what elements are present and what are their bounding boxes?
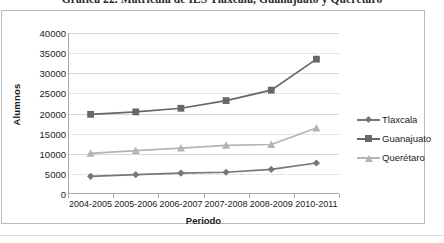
- data-point-marker: [178, 105, 185, 112]
- y-tick-label: 35000: [4, 49, 66, 58]
- legend-label: Guanajuato: [382, 133, 431, 144]
- data-point-marker: [268, 166, 275, 173]
- y-tick-label: 15000: [4, 129, 66, 138]
- series-lines: [68, 33, 339, 194]
- data-point-marker: [313, 159, 320, 166]
- x-tick: [294, 194, 295, 198]
- data-point-marker: [312, 124, 320, 131]
- figure-page: Gráfica 22. Matrícula de IES Tlaxcala, G…: [0, 0, 444, 243]
- data-point-marker: [87, 111, 94, 118]
- x-axis-tick-labels: 2004-20052005-20062006-20072007-20082008…: [68, 199, 339, 211]
- data-point-marker: [132, 171, 139, 178]
- x-tick: [68, 194, 69, 198]
- x-tick: [158, 194, 159, 198]
- y-tick-label: 0: [4, 190, 66, 199]
- x-tick: [113, 194, 114, 198]
- x-axis-title: Periodo: [68, 215, 339, 226]
- series-line-tlaxcala: [91, 163, 317, 176]
- x-tick-label: 2007-2008: [204, 199, 249, 210]
- data-point-marker: [223, 97, 230, 104]
- x-tick-label: 2008-2009: [249, 199, 294, 210]
- page-divider-rule: [0, 235, 444, 236]
- data-point-marker: [87, 173, 94, 180]
- x-tick-label: 2010-2011: [294, 199, 339, 210]
- data-point-marker: [268, 87, 275, 94]
- x-tick: [339, 194, 340, 198]
- legend-item-tlaxcala[interactable]: Tlaxcala: [357, 110, 442, 129]
- data-point-marker: [222, 169, 229, 176]
- y-tick-label: 5000: [4, 169, 66, 178]
- y-tick-label: 25000: [4, 89, 66, 98]
- legend-item-querétaro[interactable]: Querétaro: [357, 148, 442, 167]
- x-tick: [249, 194, 250, 198]
- chart-frame: Alumnos 40000350003000025000200001500010…: [1, 10, 425, 224]
- data-point-marker: [313, 56, 320, 63]
- y-tick-label: 40000: [4, 29, 66, 38]
- legend-marker-icon: [357, 134, 380, 143]
- legend-marker-icon: [357, 115, 380, 124]
- plot-area: [68, 33, 339, 194]
- x-tick: [204, 194, 205, 198]
- figure-caption: Gráfica 22. Matrícula de IES Tlaxcala, G…: [0, 0, 444, 7]
- series-line-querétaro: [91, 128, 317, 153]
- y-tick-label: 30000: [4, 69, 66, 78]
- chart-legend: TlaxcalaGuanajuatoQuerétaro: [357, 110, 442, 167]
- x-tick-label: 2004-2005: [68, 199, 113, 210]
- legend-label: Tlaxcala: [382, 114, 417, 125]
- data-point-marker: [177, 169, 184, 176]
- y-tick-label: 20000: [4, 109, 66, 118]
- y-tick-label: 10000: [4, 149, 66, 158]
- legend-item-guanajuato[interactable]: Guanajuato: [357, 129, 442, 148]
- legend-label: Querétaro: [382, 152, 425, 163]
- x-tick-label: 2005-2006: [113, 199, 158, 210]
- legend-marker-icon: [357, 153, 380, 162]
- y-axis-tick-labels: 4000035000300002500020000150001000050000: [2, 33, 66, 194]
- x-tick-label: 2006-2007: [158, 199, 203, 210]
- series-line-guanajuato: [91, 59, 317, 114]
- data-point-marker: [132, 108, 139, 115]
